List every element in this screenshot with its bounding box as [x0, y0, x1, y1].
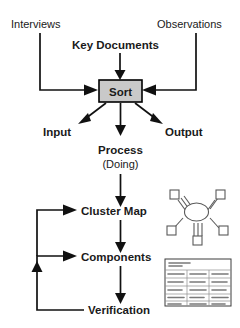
arrowhead-icon-keydocs	[115, 70, 126, 80]
connector-feedback-to-components	[37, 256, 63, 266]
node-label-components: Components	[81, 251, 151, 263]
arrowhead-icon-process	[115, 125, 126, 136]
node-label-interviews: Interviews	[11, 18, 61, 30]
document-table-icon	[165, 259, 231, 306]
node-label-input: Input	[43, 126, 71, 138]
cluster-map-center-node	[185, 203, 209, 221]
arrowhead-icon-observations	[142, 85, 156, 96]
node-label-cluster-map: Cluster Map	[81, 205, 147, 217]
arrowhead-icon-output	[150, 113, 163, 124]
node-label-key-documents: Key Documents	[72, 39, 159, 51]
node-label-sort: Sort	[109, 86, 132, 98]
arrowhead-icon-interviews	[84, 85, 98, 96]
arrowhead-icon-feedback-components	[63, 251, 77, 262]
connector-verification-feedback	[37, 272, 84, 310]
arrowhead-icon-input	[78, 113, 91, 124]
arrowhead-icon-verification	[115, 293, 126, 304]
arrowhead-icon-feedback-clustermap	[63, 205, 77, 216]
cluster-map-icon	[167, 190, 228, 245]
node-label-verification: Verification	[88, 304, 150, 316]
node-label-process: Process	[98, 144, 143, 156]
connector-observations-to-sort	[156, 33, 196, 90]
node-label-output: Output	[165, 126, 203, 138]
flow-diagram: Interviews Observations Key Documents So…	[0, 0, 240, 328]
node-label-process-sub: (Doing)	[102, 158, 138, 170]
connector-feedback-to-clustermap	[37, 210, 63, 256]
diagram-canvas: Interviews Observations Key Documents So…	[0, 0, 240, 328]
node-label-observations: Observations	[157, 18, 222, 30]
